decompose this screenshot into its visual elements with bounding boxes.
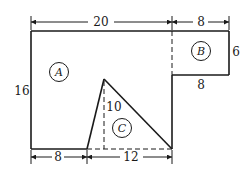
region-a-label: A [50,63,69,82]
dim-triangle-height: 10 [106,100,121,114]
dashed-lines [87,31,172,149]
dim-bottom-12: 12 [123,150,138,164]
region-c-label: C [113,119,132,138]
dim-left-16: 16 [14,84,29,98]
dim-top-20: 20 [93,15,108,29]
svg-text:A: A [54,66,63,79]
dim-b-height: 6 [232,45,240,59]
region-b-label: B [192,42,211,61]
svg-text:C: C [118,122,127,135]
dim-top-8: 8 [197,15,205,29]
diagram-canvas: 20 8 6 8 16 10 8 12 A B C [0,0,248,175]
dim-bottom-8: 8 [54,150,62,164]
svg-text:B: B [196,45,205,58]
dim-b-bottom: 8 [197,78,205,92]
